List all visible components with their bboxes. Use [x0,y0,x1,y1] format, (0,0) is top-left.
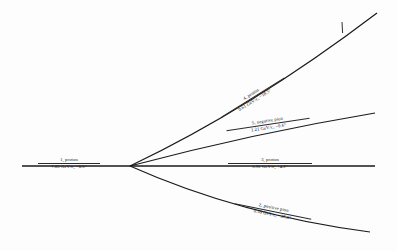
event-diagram-figure: 1, proton 7.85 GeV/c, −0.6° 3, proton 5.… [0,0,397,251]
track-label-3-value: 5.92 GeV/c, +4.2° [228,164,312,169]
decay-tick-mark [342,22,343,33]
track-label-1-value: 7.85 GeV/c, −0.6° [38,164,100,169]
track-canvas [0,0,397,251]
track-label-1: 1, proton 7.85 GeV/c, −0.6° [38,157,100,170]
track-path-2 [130,166,370,232]
track-label-3-name: 3, proton [228,157,312,162]
track-label-1-name: 1, proton [38,157,100,162]
track-label-3: 3, proton 5.92 GeV/c, +4.2° [228,157,312,170]
